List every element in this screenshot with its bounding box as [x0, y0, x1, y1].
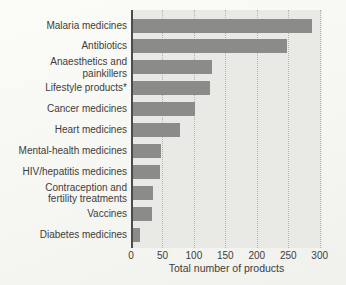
x-tick-label-0: 0	[114, 250, 148, 261]
category-label-9: Vaccines	[0, 208, 127, 220]
bar-8	[133, 186, 153, 200]
y-axis-line	[131, 10, 133, 248]
category-label-7: HIV/hepatitis medicines	[0, 166, 127, 178]
gridline-250	[288, 10, 289, 248]
x-tick-label-100: 100	[177, 250, 211, 261]
category-label-8: Contraception and fertility treatments	[0, 181, 127, 204]
x-axis-title: Total number of products	[131, 262, 322, 274]
category-label-4: Cancer medicines	[0, 103, 127, 115]
bar-chart-figure: Malaria medicinesAntibioticsAnaesthetics…	[0, 0, 346, 285]
category-label-2: Anaesthetics and painkillers	[0, 56, 127, 79]
x-tick-label-250: 250	[271, 250, 305, 261]
category-label-3: Lifestyle products*	[0, 82, 127, 94]
bar-6	[133, 144, 161, 158]
category-label-1: Antibiotics	[0, 41, 127, 53]
gridline-300	[320, 10, 321, 248]
bar-3	[133, 81, 210, 95]
category-label-5: Heart medicines	[0, 124, 127, 136]
x-tick-label-150: 150	[208, 250, 242, 261]
x-tick-label-50: 50	[145, 250, 179, 261]
bar-1	[133, 39, 287, 53]
bar-9	[133, 207, 152, 221]
category-label-0: Malaria medicines	[0, 20, 127, 32]
x-tick-label-300: 300	[303, 250, 337, 261]
bar-7	[133, 165, 160, 179]
bar-4	[133, 102, 195, 116]
bar-10	[133, 228, 140, 242]
category-label-6: Mental-health medicines	[0, 145, 127, 157]
bar-0	[133, 19, 312, 33]
bar-5	[133, 123, 180, 137]
x-tick-label-200: 200	[240, 250, 274, 261]
category-label-10: Diabetes medicines	[0, 229, 127, 241]
bar-2	[133, 60, 212, 74]
plot-area	[131, 10, 322, 248]
